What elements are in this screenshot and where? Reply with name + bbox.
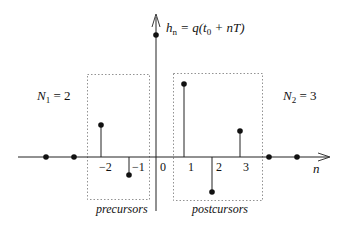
x-axis-label: n	[313, 162, 320, 175]
tick-label-neg1: −1	[132, 161, 145, 173]
precursors-box	[88, 75, 150, 200]
n1-annotation: N1 = 2	[37, 89, 71, 105]
tick-label-0: 0	[160, 161, 166, 173]
sample-points	[43, 32, 300, 195]
tick-label-neg2: −2	[99, 161, 112, 173]
y-axis-label: hn = q(t0 + nT)	[166, 21, 245, 37]
stems	[101, 84, 240, 192]
tick-label-1: 1	[188, 161, 194, 173]
tick-label-3: 3	[243, 161, 249, 173]
n2-annotation: N2 = 3	[283, 89, 317, 105]
precursors-label: precursors	[96, 203, 148, 215]
postcursors-label: postcursors	[192, 203, 248, 215]
tick-label-2: 2	[216, 161, 222, 173]
postcursors-box	[174, 74, 263, 201]
